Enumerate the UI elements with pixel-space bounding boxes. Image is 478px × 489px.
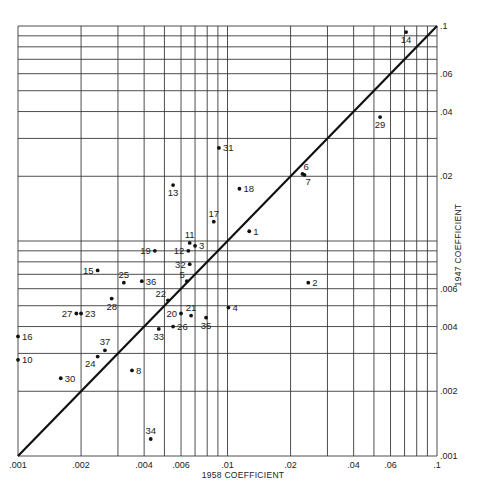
point-label: 17 <box>208 208 219 219</box>
point-label: 28 <box>106 301 117 312</box>
data-point-18: 18 <box>238 183 254 194</box>
data-point-33: 33 <box>154 327 165 342</box>
point-label: 33 <box>154 331 165 342</box>
point-label: 7 <box>305 176 310 187</box>
y-tick-label: .004 <box>440 322 458 332</box>
point-label: 37 <box>100 336 111 347</box>
point-marker <box>79 312 83 316</box>
point-label: 6 <box>303 161 308 172</box>
log-scatter-chart: .001.002.004.006.01.02.04.06.1 .001.002.… <box>0 0 478 489</box>
point-label: 5 <box>180 269 185 280</box>
point-label: 31 <box>223 142 234 153</box>
point-label: 36 <box>146 276 157 287</box>
point-marker <box>171 325 175 329</box>
data-point-16: 16 <box>16 331 32 342</box>
point-marker <box>149 437 153 441</box>
y-tick-label: .002 <box>440 386 458 396</box>
point-label: 16 <box>22 331 33 342</box>
point-label: 15 <box>83 265 94 276</box>
point-marker <box>16 358 20 362</box>
data-point-11: 11 <box>185 229 195 245</box>
data-point-8: 8 <box>130 365 141 376</box>
point-label: 12 <box>174 245 185 256</box>
x-tick-label: .1 <box>433 460 441 470</box>
data-point-4: 4 <box>227 302 238 313</box>
point-label: 8 <box>136 365 141 376</box>
point-marker <box>16 334 20 338</box>
x-tick-label: .02 <box>284 460 297 470</box>
data-point-29: 29 <box>375 115 386 130</box>
data-point-34: 34 <box>145 425 156 441</box>
point-marker <box>238 187 242 191</box>
point-label: 34 <box>145 425 156 436</box>
data-point-20: 20 <box>166 308 182 319</box>
point-marker <box>188 241 192 245</box>
point-label: 22 <box>155 288 166 299</box>
data-points: 1234567810111213141516171819202122232425… <box>16 30 411 441</box>
x-tick-label: .002 <box>72 460 90 470</box>
data-point-25: 25 <box>119 269 130 285</box>
x-tick-label: .001 <box>9 460 27 470</box>
x-tick-label: .01 <box>221 460 234 470</box>
y-tick-label: .001 <box>440 451 458 461</box>
point-label: 27 <box>62 308 73 319</box>
point-marker <box>193 244 197 248</box>
x-tick-label: .006 <box>172 460 190 470</box>
point-marker <box>153 249 157 253</box>
point-marker <box>186 249 190 253</box>
point-label: 19 <box>140 245 151 256</box>
y-tick-label: .04 <box>440 107 453 117</box>
point-marker <box>306 281 310 285</box>
point-label: 14 <box>401 34 412 45</box>
point-label: 23 <box>85 308 96 319</box>
data-point-27: 27 <box>62 308 78 319</box>
point-marker <box>188 262 192 266</box>
point-marker <box>59 376 63 380</box>
data-point-36: 36 <box>140 276 156 287</box>
point-label: 4 <box>232 302 237 313</box>
point-marker <box>140 279 144 283</box>
y-axis-title: 1947 COEFFICIENT <box>453 204 463 287</box>
point-marker <box>185 279 189 283</box>
point-label: 11 <box>185 229 195 240</box>
point-label: 32 <box>175 259 186 270</box>
data-point-28: 28 <box>106 297 117 312</box>
point-label: 1 <box>253 226 258 237</box>
data-point-37: 37 <box>100 336 111 352</box>
y-tick-label: .02 <box>440 171 453 181</box>
point-label: 24 <box>85 358 96 369</box>
data-point-30: 30 <box>59 373 75 384</box>
point-label: 25 <box>119 269 130 280</box>
data-point-23: 23 <box>79 308 95 319</box>
point-label: 13 <box>168 187 179 198</box>
point-label: 20 <box>166 308 177 319</box>
data-point-10: 10 <box>16 354 32 365</box>
data-point-14: 14 <box>401 30 412 45</box>
x-tick-label: .04 <box>347 460 360 470</box>
y-tick-label: .1 <box>440 21 448 31</box>
point-marker <box>247 229 251 233</box>
point-label: 18 <box>243 183 254 194</box>
point-marker <box>103 348 107 352</box>
point-label: 35 <box>201 320 212 331</box>
x-tick-label: .06 <box>384 460 397 470</box>
data-point-1: 1 <box>247 226 258 237</box>
data-point-22: 22 <box>155 288 169 302</box>
point-marker <box>96 268 100 272</box>
y-tick-label: .06 <box>440 69 453 79</box>
x-axis-tick-labels: .001.002.004.006.01.02.04.06.1 <box>9 460 441 470</box>
data-point-19: 19 <box>140 245 156 256</box>
data-point-32: 32 <box>175 259 191 270</box>
point-marker <box>130 369 134 373</box>
x-axis-title: 1958 COEFFICIENT <box>202 470 285 480</box>
point-label: 21 <box>186 302 197 313</box>
point-label: 10 <box>22 354 33 365</box>
point-marker <box>217 146 221 150</box>
point-label: 26 <box>177 321 188 332</box>
point-marker <box>122 281 126 285</box>
point-marker <box>189 314 193 318</box>
data-point-7: 7 <box>303 173 311 187</box>
point-label: 29 <box>375 119 386 130</box>
point-marker <box>166 298 170 302</box>
data-point-31: 31 <box>217 142 233 153</box>
